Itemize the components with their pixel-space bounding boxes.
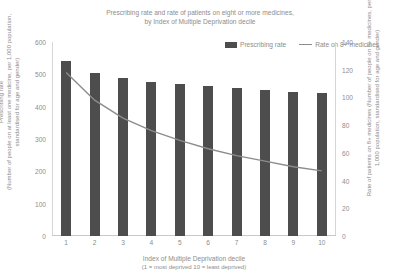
y-axis-left-tick-400: 400 — [35, 103, 46, 110]
x-axis-tick-3: 3 — [121, 239, 125, 246]
y-axis-right-tick-0: 0 — [342, 233, 346, 240]
line-series-rate-on-8-plus-medicines — [52, 42, 336, 236]
y-axis-right-ticks: 140120100806040200 — [338, 42, 366, 236]
y-axis-left-tick-300: 300 — [35, 136, 46, 143]
chart-title: Prescribing rate and rate of patients on… — [50, 8, 350, 26]
x-axis-tick-4: 4 — [150, 239, 154, 246]
y-axis-left-tick-500: 500 — [35, 71, 46, 78]
y-axis-right-tick-40: 40 — [342, 177, 349, 184]
y-axis-right-tick-140: 140 — [342, 39, 353, 46]
y-axis-right-tick-60: 60 — [342, 149, 349, 156]
x-axis-tick-1: 1 — [64, 239, 68, 246]
chart-figure: Prescribing rate and rate of patients on… — [0, 0, 409, 280]
y-axis-left-title-line-2: (Number of people on at least one medici… — [5, 0, 21, 207]
y-axis-right-tick-120: 120 — [342, 66, 353, 73]
y-axis-left-title: Prescribing rate (Number of people on at… — [0, 0, 21, 207]
y-axis-right-title-line-1: Rate of patients on 8+ medicines — [366, 109, 372, 197]
x-axis-tick-10: 10 — [318, 239, 325, 246]
y-axis-right-tick-80: 80 — [342, 122, 349, 129]
x-axis-title: Index of Multiple Deprivation decile (1 … — [52, 254, 336, 272]
x-axis-title-main: Index of Multiple Deprivation decile — [143, 255, 245, 262]
y-axis-left-tick-100: 100 — [35, 200, 46, 207]
x-axis-tick-5: 5 — [178, 239, 182, 246]
chart-title-line-1: Prescribing rate and rate of patients on… — [106, 9, 294, 16]
y-axis-left-tick-0: 0 — [42, 233, 46, 240]
y-axis-left-tick-200: 200 — [35, 168, 46, 175]
x-axis-tick-9: 9 — [292, 239, 296, 246]
y-axis-left-tick-600: 600 — [35, 39, 46, 46]
y-axis-right-title: Rate of patients on 8+ medicines (Number… — [365, 0, 381, 203]
x-axis-tick-6: 6 — [206, 239, 210, 246]
x-axis-tick-8: 8 — [263, 239, 267, 246]
x-axis-title-sub: (1 = most deprived 10 = least deprived) — [52, 263, 336, 272]
plot-area — [52, 42, 336, 236]
y-axis-right-tick-20: 20 — [342, 205, 349, 212]
y-axis-right-tick-100: 100 — [342, 94, 353, 101]
x-axis-tick-7: 7 — [235, 239, 239, 246]
x-axis-tick-2: 2 — [93, 239, 97, 246]
x-axis-ticks: 12345678910 — [52, 239, 336, 251]
chart-title-line-2: by Index of Multiple Deprivation decile — [144, 18, 255, 25]
